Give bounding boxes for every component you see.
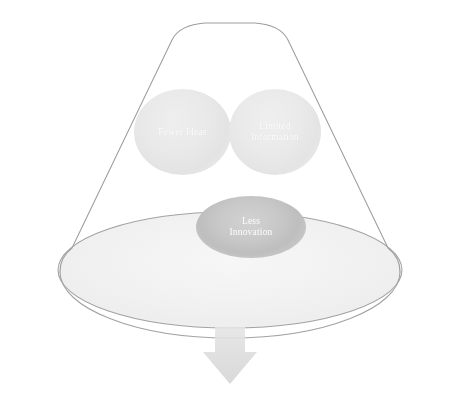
bubble-fewer-ideas: Fewer Ideas	[134, 89, 231, 175]
bubble-limited-information-label: Limited Information	[247, 121, 303, 142]
output-arrow	[203, 327, 257, 384]
bubble-less-innovation-line-2: Innovation	[229, 227, 272, 237]
bubble-less-innovation-label: Less Innovation	[225, 216, 276, 237]
bubble-less-innovation-line-1: Less	[242, 216, 260, 226]
bubble-limited-information-line-2: Information	[251, 132, 299, 142]
output-arrow-shape	[203, 327, 257, 384]
bubble-fewer-ideas-label: Fewer Ideas	[154, 127, 210, 138]
bubble-less-innovation: Less Innovation	[196, 196, 306, 258]
funnel-diagram: Fewer Ideas Limited Information Less Inn…	[0, 0, 460, 405]
bubble-limited-information: Limited Information	[229, 89, 321, 175]
bubble-limited-information-line-1: Limited	[259, 121, 290, 131]
